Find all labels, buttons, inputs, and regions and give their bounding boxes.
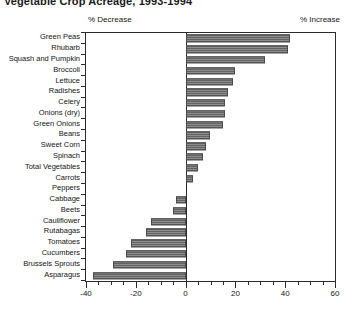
category-label: Cucumbers	[42, 249, 83, 257]
bar	[186, 89, 228, 96]
x-axis-minor-tick	[148, 282, 149, 285]
bar	[186, 78, 233, 85]
category-label: Total Vegetables	[25, 163, 83, 171]
bar-series	[86, 33, 335, 281]
category-label: Green Peas	[40, 33, 83, 41]
increase-header-label: % Increase	[300, 15, 340, 24]
bar-row	[86, 76, 335, 87]
bar	[186, 45, 288, 52]
category-label-row: Onions (dry)	[0, 107, 83, 118]
category-label-row: Beans	[0, 129, 83, 140]
category-label: Rhubarb	[51, 44, 83, 52]
bar	[186, 67, 236, 74]
bar	[186, 175, 193, 182]
x-axis-major-tick	[86, 282, 87, 288]
bar	[186, 164, 198, 171]
category-label-row: Rhubarb	[0, 43, 83, 54]
bar-row	[86, 162, 335, 173]
x-axis-minor-tick	[98, 282, 99, 285]
chart-figure: Vegetable Crop Acreage, 1993-1994 % Decr…	[0, 0, 344, 315]
category-label: Carrots	[55, 174, 83, 182]
category-label: Tomatoes	[47, 238, 83, 246]
bar-row	[86, 55, 335, 66]
category-label: Broccoli	[53, 66, 83, 74]
bar	[131, 240, 186, 247]
category-label-row: Carrots	[0, 172, 83, 183]
bar-row	[86, 98, 335, 109]
bar	[186, 143, 206, 150]
x-axis-tick-label: 20	[231, 289, 240, 298]
bar-row	[86, 270, 335, 281]
bar	[186, 56, 266, 63]
category-label-row: Tomatoes	[0, 237, 83, 248]
category-label: Beans	[59, 130, 83, 138]
category-label: Cauliflower	[43, 217, 83, 225]
category-label-row: Broccoli	[0, 64, 83, 75]
category-label-row: Lettuce	[0, 75, 83, 86]
x-axis-minor-tick	[310, 282, 311, 285]
category-label: Cabbage	[50, 195, 83, 203]
x-axis-tick-label: 40	[281, 289, 290, 298]
category-label: Rutabagas	[44, 227, 83, 235]
bar	[146, 229, 186, 236]
x-axis-minor-tick	[111, 282, 112, 285]
bar-row	[86, 173, 335, 184]
x-axis-major-tick	[285, 282, 286, 288]
category-label: Green Onions	[33, 120, 83, 128]
category-label: Sweet Corn	[41, 141, 83, 149]
bar-row	[86, 119, 335, 130]
x-axis-tick-label: -20	[130, 289, 142, 298]
x-axis-minor-tick	[211, 282, 212, 285]
category-label-row: Cucumbers	[0, 248, 83, 259]
category-label: Lettuce	[55, 77, 83, 85]
x-axis-minor-tick	[161, 282, 162, 285]
x-axis-major-tick	[335, 282, 336, 288]
category-label-row: Sweet Corn	[0, 140, 83, 151]
x-axis-minor-tick	[273, 282, 274, 285]
x-axis-minor-tick	[260, 282, 261, 285]
category-label: Radishes	[49, 87, 83, 95]
category-label-row: Spinach	[0, 151, 83, 162]
x-axis-minor-tick	[248, 282, 249, 285]
bar-row	[86, 108, 335, 119]
category-label-row: Radishes	[0, 86, 83, 97]
category-label: Squash and Pumpkin	[9, 55, 83, 63]
bar-row	[86, 249, 335, 260]
x-axis-tick-label: -40	[80, 289, 92, 298]
bar	[93, 272, 185, 279]
category-label-row: Asparagus	[0, 269, 83, 280]
category-label-row: Green Onions	[0, 118, 83, 129]
x-axis-major-tick	[235, 282, 236, 288]
bar	[176, 196, 186, 203]
x-axis-tick-labels: -40-200204060	[85, 289, 336, 303]
x-axis-minor-tick	[123, 282, 124, 285]
bar-row	[86, 238, 335, 249]
plot-area	[85, 32, 336, 282]
bar	[113, 261, 185, 268]
bar-row	[86, 259, 335, 270]
x-axis-minor-tick	[323, 282, 324, 285]
bar-row	[86, 130, 335, 141]
bar	[186, 121, 223, 128]
x-axis-minor-tick	[223, 282, 224, 285]
bar	[186, 35, 291, 42]
bar	[186, 99, 226, 106]
x-axis-major-tick	[186, 282, 187, 288]
category-label-row: Peppers	[0, 183, 83, 194]
x-axis-minor-tick	[198, 282, 199, 285]
bar	[151, 218, 186, 225]
category-label: Onions (dry)	[39, 109, 83, 117]
category-label: Brussels Sprouts	[23, 260, 83, 268]
bar-row	[86, 44, 335, 55]
bar-row	[86, 227, 335, 238]
bar-row	[86, 65, 335, 76]
bar-row	[86, 216, 335, 227]
category-label-row: Total Vegetables	[0, 161, 83, 172]
category-label: Spinach	[53, 152, 83, 160]
category-label-row: Celery	[0, 97, 83, 108]
bar	[173, 207, 185, 214]
x-axis-major-tick	[136, 282, 137, 288]
bar-row	[86, 87, 335, 98]
category-label-row: Cabbage	[0, 194, 83, 205]
x-axis-tick-label: 0	[183, 289, 187, 298]
